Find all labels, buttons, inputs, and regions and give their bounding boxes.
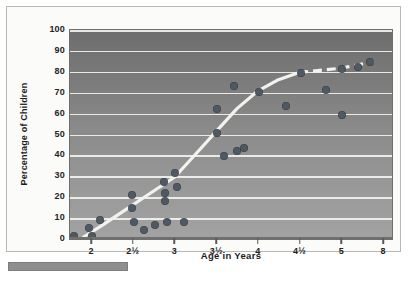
y-axis-title-label: Percentage of Children: [19, 82, 29, 185]
data-point: [339, 111, 346, 118]
caption-bar: [8, 262, 128, 271]
data-point: [297, 69, 304, 76]
data-point: [160, 178, 167, 185]
data-point: [161, 190, 168, 197]
y-tick-label: 60: [35, 108, 65, 118]
data-point: [354, 63, 361, 70]
data-point: [255, 88, 262, 95]
x-tick-mark: [382, 238, 384, 244]
data-point: [129, 192, 136, 199]
y-tick-label: 70: [35, 87, 65, 97]
data-point: [339, 65, 346, 72]
x-tick-mark: [90, 238, 92, 244]
data-point: [322, 86, 329, 93]
data-point: [367, 59, 374, 66]
data-point: [230, 83, 237, 90]
x-tick-mark: [215, 238, 217, 244]
data-point: [140, 226, 147, 233]
y-tick-label: 0: [35, 233, 65, 243]
y-tick-label: 90: [35, 45, 65, 55]
x-tick-mark: [132, 238, 134, 244]
y-tick-label: 20: [35, 191, 65, 201]
x-tick-mark: [299, 238, 301, 244]
y-tick-label: 100: [35, 24, 65, 34]
x-tick-mark: [257, 238, 259, 244]
plot-area: [69, 29, 393, 238]
chart-screenshot: Percentage of Children 10090807060504030…: [0, 0, 413, 282]
data-point: [86, 224, 93, 231]
x-tick-mark: [174, 238, 176, 244]
x-axis-title: Age in Years: [69, 250, 393, 261]
y-tick-label: 30: [35, 170, 65, 180]
data-point: [130, 219, 137, 226]
data-point: [152, 222, 159, 229]
data-point: [174, 183, 181, 190]
figure-frame: Percentage of Children 10090807060504030…: [6, 6, 401, 252]
y-axis-title: Percentage of Children: [17, 29, 31, 238]
y-tick-label: 80: [35, 66, 65, 76]
data-point: [97, 217, 104, 224]
trend-curve-solid: [84, 72, 300, 237]
data-point: [282, 103, 289, 110]
data-point: [214, 130, 221, 137]
data-point: [129, 204, 136, 211]
data-point: [172, 170, 179, 177]
x-tick-mark: [341, 238, 343, 244]
y-tick-label: 50: [35, 129, 65, 139]
y-tick-label: 10: [35, 212, 65, 222]
y-axis-ticks: 1009080706050403020100: [33, 29, 65, 238]
data-point: [240, 145, 247, 152]
data-point: [162, 198, 169, 205]
data-point: [164, 219, 171, 226]
data-point: [214, 106, 221, 113]
trend-curve-dashed: [299, 61, 374, 72]
data-point: [180, 219, 187, 226]
data-point: [220, 153, 227, 160]
trend-curve: [70, 30, 392, 237]
y-tick-label: 40: [35, 149, 65, 159]
